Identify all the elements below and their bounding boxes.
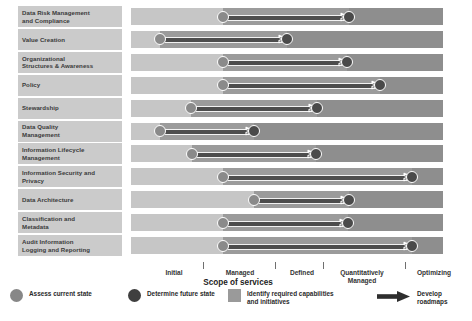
maturity-bar: [131, 31, 443, 48]
future-state-marker[interactable]: [406, 171, 418, 183]
roadmap-arrow-shaft: [228, 83, 381, 89]
current-state-marker[interactable]: [185, 102, 197, 114]
current-state-marker[interactable]: [186, 148, 198, 160]
chart-row: Data Architecture: [0, 189, 472, 210]
maturity-bar: [131, 8, 443, 25]
maturity-bar: [131, 123, 443, 140]
legend-label-line1: Determine future state: [147, 290, 215, 298]
legend-label-line1: Identify required capabilities: [247, 290, 334, 298]
current-state-marker[interactable]: [217, 240, 229, 252]
chart-legend: Assess current stateDetermine future sta…: [0, 289, 472, 321]
roadmap-arrow-shaft: [197, 152, 317, 158]
row-label-line1: Value Creation: [22, 36, 118, 44]
maturity-bar: [131, 54, 443, 71]
row-label-line2: Privacy: [22, 177, 118, 185]
maturity-bar: [131, 100, 443, 117]
row-label-line1: Stewardship: [22, 104, 118, 112]
row-label-box: Audit InformationLogging and Reporting: [18, 235, 122, 256]
row-label-box: Data Risk Managementand Compliance: [18, 6, 122, 27]
row-label-box: Data Architecture: [18, 189, 122, 210]
legend-label: Identify required capabilitiesand initia…: [247, 290, 334, 306]
axis-tick-label: Optimizing: [394, 269, 472, 277]
arrow-right-icon: [377, 289, 411, 302]
axis-tick-separator: [275, 262, 276, 269]
roadmap-arrow-shaft: [165, 37, 288, 43]
maturity-bar: [131, 145, 443, 162]
future-state-marker[interactable]: [311, 102, 323, 114]
legend-label: Develop roadmaps: [417, 290, 472, 306]
chart-row: Information LifecycleManagement: [0, 143, 472, 164]
current-state-marker[interactable]: [217, 11, 229, 23]
bar-future-segment: [347, 54, 443, 71]
bar-future-segment: [254, 123, 443, 140]
row-label-line1: Organizational: [22, 55, 118, 63]
bar-future-segment: [349, 191, 443, 208]
legend-label: Determine future state: [147, 290, 215, 298]
bar-future-segment: [317, 100, 443, 117]
roadmap-arrow-shaft: [228, 175, 413, 181]
bar-future-segment: [348, 214, 443, 231]
current-state-marker[interactable]: [217, 217, 229, 229]
future-state-marker[interactable]: [248, 125, 260, 137]
legend-item: Identify required capabilitiesand initia…: [228, 289, 368, 306]
bar-future-segment: [349, 8, 443, 25]
axis-tick-separator: [405, 262, 406, 269]
row-label-line2: Metadata: [22, 223, 118, 231]
chart-row: Audit InformationLogging and Reporting: [0, 235, 472, 256]
row-label-line1: Audit Information: [22, 238, 118, 246]
row-label-box: Classification andMetadata: [18, 212, 122, 233]
maturity-bar: [131, 191, 443, 208]
row-label-line1: Information Security and: [22, 169, 118, 177]
axis-tick-label-line1: Quantitatively: [322, 269, 402, 277]
legend-label-line2: and initiatives: [247, 298, 334, 306]
maturity-assessment-chart: Data Risk Managementand ComplianceValue …: [0, 0, 472, 321]
future-state-marker[interactable]: [310, 148, 322, 160]
legend-item: Develop roadmaps: [377, 289, 472, 306]
circle-dark-icon: [128, 289, 141, 302]
chart-row: Classification andMetadata: [0, 212, 472, 233]
chart-row: Data QualityManagement: [0, 121, 472, 142]
row-label-line2: Logging and Reporting: [22, 246, 118, 254]
current-state-marker[interactable]: [217, 171, 229, 183]
legend-label-line1: Develop roadmaps: [417, 290, 472, 306]
chart-row: Information Security andPrivacy: [0, 166, 472, 187]
row-label-line2: Management: [22, 131, 118, 139]
chart-row: Data Risk Managementand Compliance: [0, 6, 472, 27]
future-state-marker[interactable]: [343, 194, 355, 206]
row-label-box: Stewardship: [18, 98, 122, 119]
roadmap-arrow-shaft: [165, 129, 255, 135]
axis-tick-separator: [203, 262, 204, 269]
row-label-line1: Policy: [22, 81, 118, 89]
axis-tick-label-line1: Optimizing: [394, 269, 472, 277]
row-label-box: Information LifecycleManagement: [18, 143, 122, 164]
row-label-line1: Classification and: [22, 215, 118, 223]
bar-future-segment: [316, 145, 443, 162]
square-gray-icon: [228, 289, 241, 302]
row-label-line1: Data Quality: [22, 123, 118, 131]
future-state-marker[interactable]: [343, 11, 355, 23]
row-label-line1: Information Lifecycle: [22, 146, 118, 154]
row-label-line2: and Compliance: [22, 17, 118, 25]
row-label-line2: Structures & Awareness: [22, 62, 118, 70]
future-state-marker[interactable]: [342, 217, 354, 229]
axis-tick-label-line2: Managed: [322, 277, 402, 285]
legend-item: Determine future state: [128, 289, 238, 302]
roadmap-arrow-shaft: [228, 221, 349, 227]
current-state-marker[interactable]: [248, 194, 260, 206]
legend-label: Assess current state: [29, 290, 92, 298]
legend-item: Assess current state: [10, 289, 110, 302]
row-label-box: Value Creation: [18, 29, 122, 50]
roadmap-arrow-shaft: [228, 244, 413, 250]
future-state-marker[interactable]: [406, 240, 418, 252]
row-label-box: Data QualityManagement: [18, 121, 122, 142]
x-axis: InitialManagedDefinedQuantitativelyManag…: [0, 262, 472, 288]
row-label-line1: Data Architecture: [22, 196, 118, 204]
legend-label-line1: Assess current state: [29, 290, 92, 298]
chart-row: Stewardship: [0, 98, 472, 119]
maturity-bar: [131, 168, 443, 185]
row-label-box: Information Security andPrivacy: [18, 166, 122, 187]
axis-tick-separator: [323, 262, 324, 269]
row-label-line1: Data Risk Management: [22, 9, 118, 17]
chart-row: Policy: [0, 75, 472, 96]
current-state-marker[interactable]: [154, 125, 166, 137]
